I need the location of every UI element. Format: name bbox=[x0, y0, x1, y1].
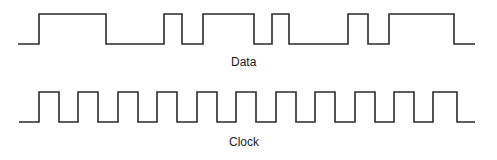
clock-label: Clock bbox=[229, 135, 259, 149]
data-waveform bbox=[18, 14, 475, 44]
clock-waveform bbox=[19, 92, 475, 122]
data-label: Data bbox=[231, 55, 256, 69]
